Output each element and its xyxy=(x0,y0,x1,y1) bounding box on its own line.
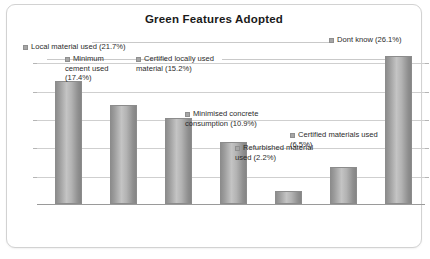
legend-marker-icon xyxy=(235,146,240,151)
axis-tick xyxy=(33,177,37,178)
axis-tick xyxy=(425,63,429,64)
data-label-certified-materials: Certified materials used (6.5%) xyxy=(290,130,380,149)
axis-tick xyxy=(425,120,429,121)
data-label-dont-know: Dont know (26.1%) xyxy=(329,35,425,45)
data-label-local-material: Local material used (21.7%) xyxy=(23,42,173,52)
gridline xyxy=(37,92,425,93)
axis-tick xyxy=(33,148,37,149)
bar-local-material[interactable] xyxy=(55,81,82,204)
bar-refurbished-material[interactable] xyxy=(275,191,302,204)
legend-marker-icon xyxy=(185,112,190,117)
data-label-minimised-concrete: Minimised concrete consumption (10.9%) xyxy=(185,109,285,128)
axis-tick xyxy=(33,63,37,64)
axis-tick xyxy=(425,177,429,178)
chart-frame: Green Features Adopted xyxy=(6,4,422,248)
axis-tick xyxy=(33,92,37,93)
chart-title: Green Features Adopted xyxy=(7,13,421,25)
legend-marker-icon xyxy=(136,57,141,62)
legend-marker-icon xyxy=(329,38,334,43)
legend-marker-icon xyxy=(23,45,28,50)
x-axis-baseline xyxy=(37,204,425,205)
screenshot-root: Green Features Adopted xyxy=(0,0,430,259)
axis-tick xyxy=(425,148,429,149)
bar-dont-know[interactable] xyxy=(385,56,412,204)
bar-certified-materials[interactable] xyxy=(330,167,357,204)
axis-tick xyxy=(33,120,37,121)
bar-certified-locally[interactable] xyxy=(165,118,192,204)
data-label-minimum-cement: Minimum cement used (17.4%) xyxy=(65,54,127,83)
legend-marker-icon xyxy=(65,57,70,62)
legend-marker-icon xyxy=(290,133,295,138)
bar-minimum-cement[interactable] xyxy=(110,105,137,204)
axis-tick xyxy=(425,92,429,93)
data-label-certified-locally: Certified locally used material (15.2%) xyxy=(136,54,222,73)
